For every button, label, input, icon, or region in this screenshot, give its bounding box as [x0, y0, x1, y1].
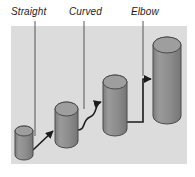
callout-label-elbow: Elbow: [131, 6, 159, 17]
callout-label-curved: Curved: [69, 6, 102, 17]
cylinder-connector-diagram: Straight Curved Elbow: [0, 0, 195, 177]
callout-labels: Straight Curved Elbow: [0, 0, 195, 177]
callout-label-straight: Straight: [11, 6, 46, 17]
